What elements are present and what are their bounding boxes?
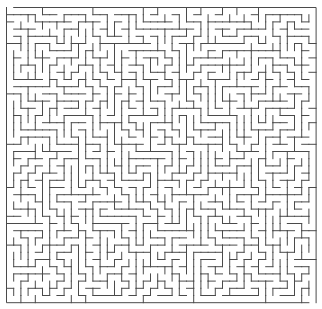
maze-puzzle: Maze — [0, 0, 322, 309]
maze-walls — [7, 8, 317, 303]
maze-grid — [0, 0, 322, 309]
